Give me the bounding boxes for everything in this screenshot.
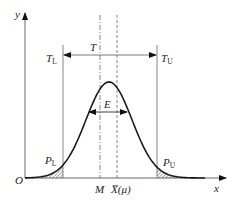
lower-limit-label: TL (46, 52, 57, 66)
tolerance-diagram: y x O TL TU T E M X̅(μ) PL PU (0, 0, 237, 201)
offset-label: E (103, 98, 111, 110)
tolerance-range-label: T (90, 41, 97, 53)
upper-limit-label: TU (161, 52, 173, 66)
x-axis-label: x (213, 182, 219, 194)
mean-label: X̅(μ) (110, 183, 131, 196)
tolerance-center-label: M (94, 183, 105, 195)
upper-tail-label: PU (162, 156, 176, 170)
origin-label: O (15, 174, 23, 186)
y-axis-label: y (14, 8, 20, 20)
lower-tail-label: PL (44, 154, 57, 168)
